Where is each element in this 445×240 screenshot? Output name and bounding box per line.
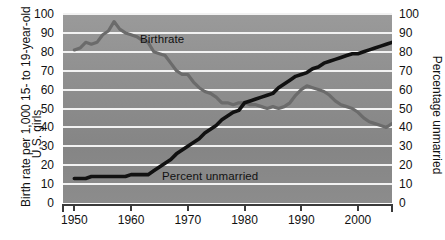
y-left-tick-label-100: 100	[34, 7, 54, 21]
y-right-tick-label-20: 20	[399, 158, 412, 172]
x-tick-1960	[130, 206, 132, 211]
x-tick-label-1950: 1950	[61, 213, 88, 227]
x-tick-2000	[357, 206, 359, 211]
x-tick-1990	[300, 206, 302, 211]
x-tick-label-2000: 2000	[345, 213, 372, 227]
x-tick-1980	[244, 206, 246, 211]
y-right-tick-label-100: 100	[399, 7, 419, 21]
line-series-percent-unmarried	[74, 42, 392, 178]
x-axis-end-right	[391, 206, 393, 212]
x-axis-end-left	[62, 206, 64, 212]
series-label-birthrate: Birthrate	[140, 33, 184, 45]
y-right-tick-label-40: 40	[399, 120, 412, 134]
y-axis-right-title: Percentage unmarried	[430, 45, 444, 185]
series-label-percent-unmarried: Percent unmarried	[162, 170, 258, 182]
y-right-tick-label-80: 80	[399, 45, 412, 59]
y-left-tick-label-0: 0	[47, 196, 54, 210]
y-right-tick-label-10: 10	[399, 177, 412, 191]
y-right-tick-label-50: 50	[399, 102, 412, 116]
y-left-tick-label-80: 80	[41, 45, 54, 59]
x-tick-label-1960: 1960	[118, 213, 145, 227]
y-right-tick-label-70: 70	[399, 64, 412, 78]
y-right-tick-label-90: 90	[399, 26, 412, 40]
y-left-tick-label-70: 70	[41, 64, 54, 78]
x-tick-1950	[73, 206, 75, 211]
x-tick-label-1970: 1970	[174, 213, 201, 227]
x-tick-label-1990: 1990	[288, 213, 315, 227]
y-right-tick-label-60: 60	[399, 83, 412, 97]
y-left-tick-label-90: 90	[41, 26, 54, 40]
x-tick-1970	[187, 206, 189, 211]
y-right-tick-label-0: 0	[399, 196, 406, 210]
x-tick-label-1980: 1980	[231, 213, 258, 227]
x-axis-line	[62, 204, 393, 206]
y-axis-left-title-line2: U.S. girls	[30, 79, 44, 189]
chart-figure: Birthrate Percent unmarried 195019601970…	[0, 0, 445, 240]
y-right-tick-label-30: 30	[399, 139, 412, 153]
